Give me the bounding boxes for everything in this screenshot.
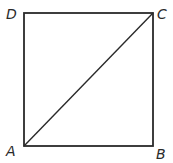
square-diagram: D C A B <box>0 0 173 163</box>
vertex-label-d: D <box>6 6 17 22</box>
diagonal-ac <box>24 13 153 146</box>
vertex-label-a: A <box>5 143 16 159</box>
vertex-label-c: C <box>157 6 167 22</box>
vertex-label-b: B <box>156 146 166 162</box>
